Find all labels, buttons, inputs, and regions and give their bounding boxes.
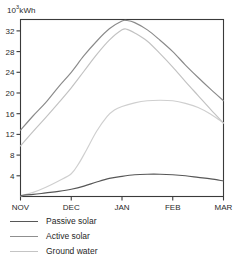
legend-item-active-solar: Active solar bbox=[0, 229, 236, 244]
series-line-ground-water-lower bbox=[21, 100, 224, 196]
series-line-ground-water bbox=[21, 29, 224, 146]
y-axis-tick-label: 16 bbox=[6, 110, 15, 119]
legend-item-ground-water: Ground water bbox=[0, 244, 236, 259]
legend-label-ground-water: Ground water bbox=[46, 247, 98, 256]
y-axis-tick-label: 24 bbox=[6, 68, 15, 77]
legend-label-active-solar: Active solar bbox=[46, 232, 90, 241]
legend-item-passive-solar: Passive solar bbox=[0, 214, 236, 229]
y-axis-tick-label: 20 bbox=[6, 89, 15, 98]
x-axis-tick-label: JAN bbox=[114, 203, 129, 212]
y-axis-tick-label: 12 bbox=[6, 130, 15, 139]
y-axis-tick-label: 8 bbox=[10, 151, 15, 160]
x-axis-tick-label: FEB bbox=[165, 203, 181, 212]
chart-container: 103kWh 48121620242832NOVDECJANFEBMAR Pas… bbox=[0, 0, 236, 259]
x-axis-tick-label: DEC bbox=[63, 203, 80, 212]
line-chart-plot: 48121620242832NOVDECJANFEBMAR bbox=[0, 0, 236, 214]
series-line-active-solar bbox=[21, 20, 224, 130]
x-axis-tick-label: NOV bbox=[12, 203, 30, 212]
y-axis-tick-label: 28 bbox=[6, 48, 15, 57]
x-axis-tick-label: MAR bbox=[215, 203, 233, 212]
legend-label-passive-solar: Passive solar bbox=[46, 217, 97, 226]
chart-legend: Passive solar Active solar Ground water bbox=[0, 214, 236, 259]
y-axis-tick-label: 4 bbox=[10, 172, 15, 181]
y-axis-tick-label: 32 bbox=[6, 27, 15, 36]
legend-line-swatch-ground-water bbox=[10, 251, 38, 252]
legend-line-swatch-active-solar bbox=[10, 236, 38, 237]
legend-line-swatch-passive-solar bbox=[10, 221, 38, 222]
